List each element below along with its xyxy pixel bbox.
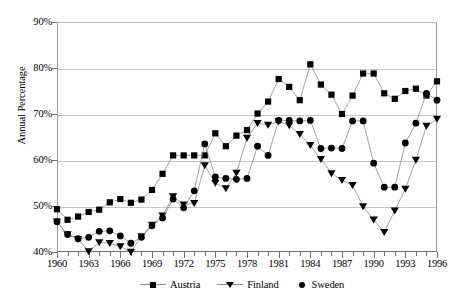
y-axis-tick-label: 60%: [8, 155, 52, 165]
x-axis-tick-mark: [289, 252, 290, 256]
x-axis-tick-mark: [363, 252, 364, 256]
legend-item-label: Sweden: [312, 279, 345, 290]
legend-key-square-icon: [140, 280, 166, 290]
legend-key-marker: [226, 282, 234, 288]
x-axis-tick-mark: [99, 252, 100, 256]
y-axis-title: Annual Percentage: [16, 21, 27, 191]
x-axis-tick-mark: [300, 252, 301, 256]
legend-key-triangle-down-icon: [217, 280, 243, 290]
gridline: [58, 207, 436, 208]
x-axis-tick-mark: [321, 252, 322, 256]
x-axis-tick-mark: [268, 252, 269, 256]
x-axis-tick-mark: [78, 252, 79, 256]
line-chart: Annual Percentage 40%50%60%70%80%90% 196…: [0, 0, 451, 302]
y-axis-tick-label: 80%: [8, 63, 52, 73]
x-axis-tick-mark: [226, 252, 227, 256]
legend-item-finland[interactable]: Finland: [217, 279, 278, 290]
y-axis-tick-label: 70%: [8, 109, 52, 119]
y-axis-tick-label: 50%: [8, 201, 52, 211]
x-axis-tick-mark: [384, 252, 385, 256]
x-axis-tick-mark: [194, 252, 195, 256]
x-axis-tick-mark: [131, 252, 132, 256]
x-axis-tick-mark: [353, 252, 354, 256]
x-axis-tick-label: 1996: [417, 258, 451, 269]
gridline: [58, 69, 436, 70]
legend-key-marker: [299, 282, 305, 288]
plot-area: [57, 22, 437, 252]
x-axis-tick-mark: [68, 252, 69, 256]
chart-legend: AustriaFinlandSweden: [140, 279, 344, 290]
gridline: [58, 161, 436, 162]
gridline: [58, 115, 436, 116]
x-axis-tick-mark: [258, 252, 259, 256]
x-axis-tick-mark: [205, 252, 206, 256]
x-axis-tick-mark: [110, 252, 111, 256]
y-axis-tick-label: 40%: [8, 247, 52, 257]
legend-key-circle-icon: [296, 280, 308, 290]
legend-item-label: Austria: [170, 279, 200, 290]
x-axis-tick-mark: [141, 252, 142, 256]
x-axis-tick-mark: [236, 252, 237, 256]
x-axis-tick-mark: [426, 252, 427, 256]
legend-item-label: Finland: [247, 279, 278, 290]
y-axis-tick-label: 90%: [8, 17, 52, 27]
x-axis-tick-mark: [173, 252, 174, 256]
x-axis-tick-mark: [163, 252, 164, 256]
x-axis-tick-mark: [331, 252, 332, 256]
x-axis-tick-mark: [416, 252, 417, 256]
legend-item-sweden[interactable]: Sweden: [296, 279, 345, 290]
legend-key-marker: [150, 282, 156, 288]
legend-item-austria[interactable]: Austria: [140, 279, 200, 290]
x-axis-tick-mark: [395, 252, 396, 256]
